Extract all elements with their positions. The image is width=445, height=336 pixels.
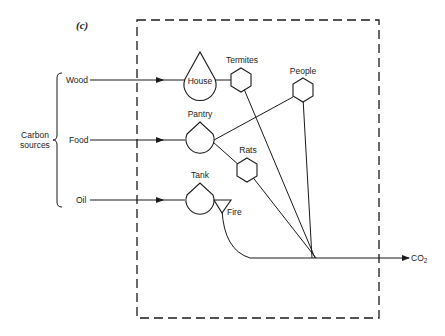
tank-label: Tank bbox=[191, 170, 210, 180]
sources-brace bbox=[53, 73, 62, 207]
people-label: People bbox=[290, 66, 317, 76]
termites-hexagon-icon bbox=[231, 68, 251, 92]
source-oil-label: Oil bbox=[76, 195, 87, 205]
process-fire: Fire bbox=[214, 200, 242, 217]
storage-tank: Tank bbox=[186, 170, 214, 214]
fire-to-co2-line bbox=[222, 210, 318, 258]
rats-label: Rats bbox=[239, 145, 256, 155]
pantry-to-people-line bbox=[214, 97, 293, 140]
source-wood-label: Wood bbox=[66, 75, 88, 85]
rats-hexagon-icon bbox=[237, 158, 257, 182]
people-to-co2-line bbox=[303, 98, 312, 258]
storage-house: House bbox=[184, 52, 216, 101]
panel-label: (c) bbox=[76, 19, 88, 32]
pantry-label: Pantry bbox=[188, 109, 213, 119]
energy-flow-diagram: (c) Carbon sources Wood Food Oil House T… bbox=[0, 0, 445, 336]
co2-output-label: CO2 bbox=[411, 253, 428, 264]
rats-to-co2-line bbox=[251, 175, 316, 258]
fire-label: Fire bbox=[227, 207, 242, 217]
termites-label: Termites bbox=[226, 55, 258, 65]
consumer-rats: Rats bbox=[237, 145, 257, 182]
storage-pantry: Pantry bbox=[186, 109, 214, 153]
carbon-label: Carbon bbox=[21, 130, 49, 140]
pantry-storage-icon bbox=[186, 122, 214, 153]
tank-storage-icon bbox=[186, 183, 214, 214]
house-label: House bbox=[188, 76, 213, 86]
pantry-to-rats-line bbox=[213, 142, 240, 166]
people-hexagon-icon bbox=[293, 78, 313, 102]
co2-subscript: 2 bbox=[424, 257, 428, 264]
consumer-people: People bbox=[290, 66, 317, 102]
sources-label: sources bbox=[20, 140, 50, 150]
consumer-termites: Termites bbox=[226, 55, 258, 92]
source-food-label: Food bbox=[69, 135, 89, 145]
co2-text: CO bbox=[411, 253, 424, 263]
